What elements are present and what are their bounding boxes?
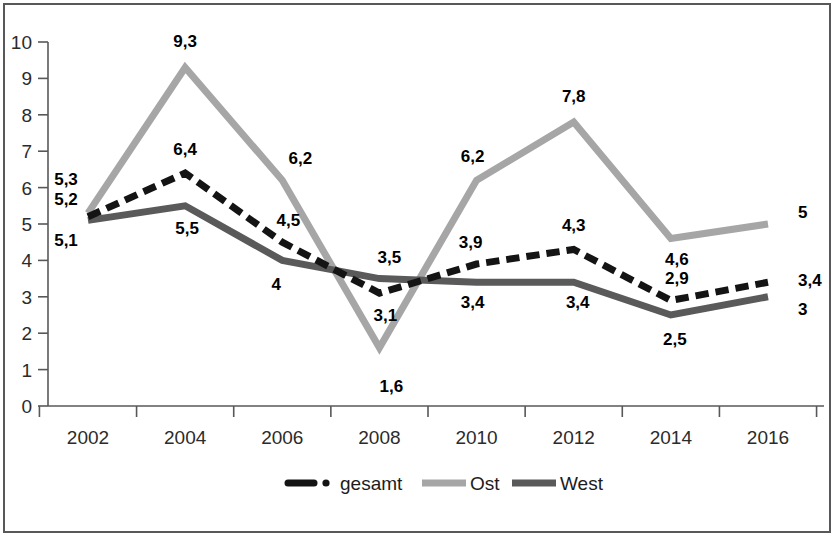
x-tick-marks (39, 406, 816, 417)
data-label-ost-2004: 9,3 (173, 32, 197, 51)
legend-item-west[interactable]: West (512, 473, 604, 494)
y-tick-label: 2 (21, 323, 32, 344)
y-tick-label: 10 (11, 32, 32, 53)
data-label-west-2002: 5,1 (54, 231, 78, 250)
chart-figure: 012345678910 200220042006200820102012201… (0, 0, 834, 536)
data-label-west-2004: 5,5 (175, 219, 199, 238)
y-tick-labels: 012345678910 (11, 32, 33, 417)
data-label-gesamt-2010: 3,9 (459, 233, 483, 252)
y-tick-marks (38, 42, 48, 406)
data-label-gesamt-2006: 4,5 (276, 211, 300, 230)
x-tick-label: 2008 (358, 427, 400, 448)
x-axis-group: 20022004200620082010201220142016 (39, 406, 824, 448)
data-label-ost-2006: 6,2 (288, 149, 312, 168)
data-label-gesamt-2008: 3,1 (374, 306, 398, 325)
data-label-gesamt-2014: 2,9 (665, 269, 689, 288)
data-label-gesamt-2016: 3,4 (798, 271, 822, 290)
x-tick-label: 2006 (261, 427, 303, 448)
x-tick-label: 2010 (455, 427, 497, 448)
data-label-west-2006: 4 (272, 275, 282, 294)
data-label-west-2008: 3,5 (378, 248, 402, 267)
series-lines (88, 67, 768, 347)
data-label-west-2010: 3,4 (461, 293, 485, 312)
data-label-west-2016: 3 (798, 300, 807, 319)
data-label-ost-2002: 5,3 (54, 170, 78, 189)
legend-swatch-dot-gesamt (322, 479, 329, 486)
y-tick-label: 6 (21, 178, 32, 199)
legend-label-ost: Ost (470, 473, 500, 494)
legend-label-west: West (560, 473, 604, 494)
y-tick-label: 0 (21, 396, 32, 417)
data-label-west-2014: 2,5 (663, 330, 687, 349)
data-label-ost-2016: 5 (798, 203, 807, 222)
legend-label-gesamt: gesamt (340, 473, 403, 494)
data-label-west-2012: 3,4 (566, 293, 590, 312)
y-tick-label: 7 (21, 141, 32, 162)
y-tick-label: 1 (21, 360, 32, 381)
legend-item-ost[interactable]: Ost (422, 473, 500, 494)
x-tick-labels: 20022004200620082010201220142016 (67, 427, 789, 448)
line-chart: 012345678910 200220042006200820102012201… (0, 0, 834, 536)
y-tick-label: 5 (21, 214, 32, 235)
x-tick-label: 2014 (650, 427, 693, 448)
chart-legend[interactable]: gesamtOstWest (288, 473, 604, 494)
data-label-ost-2008: 1,6 (380, 377, 404, 396)
y-tick-label: 9 (21, 68, 32, 89)
legend-item-gesamt[interactable]: gesamt (288, 473, 403, 494)
x-tick-label: 2004 (164, 427, 207, 448)
y-tick-label: 8 (21, 105, 32, 126)
y-tick-label: 4 (21, 250, 32, 271)
data-label-ost-2010: 6,2 (461, 147, 485, 166)
data-label-gesamt-2002: 5,2 (54, 190, 78, 209)
x-tick-label: 2016 (747, 427, 789, 448)
data-label-gesamt-2012: 4,3 (562, 216, 586, 235)
x-tick-label: 2002 (67, 427, 109, 448)
data-label-ost-2012: 7,8 (562, 87, 586, 106)
x-tick-label: 2012 (553, 427, 595, 448)
data-label-ost-2014: 4,6 (665, 250, 689, 269)
y-tick-label: 3 (21, 287, 32, 308)
data-label-gesamt-2004: 6,4 (173, 140, 197, 159)
y-axis-group: 012345678910 (11, 32, 48, 417)
